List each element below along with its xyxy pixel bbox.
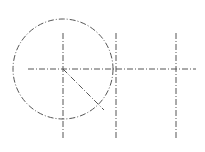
radius-line [63,69,104,110]
drawing-canvas [0,0,205,152]
